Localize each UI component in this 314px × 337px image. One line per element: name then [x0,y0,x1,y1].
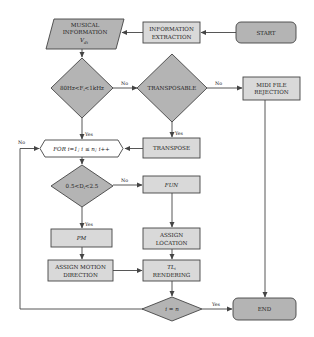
end-label: END [258,306,272,312]
assign-location-line2: LOCATION [156,240,188,246]
musical-info-line1: MUSICAL [71,22,100,28]
assign-motion-line2: DIRECTION [63,272,98,278]
tl-rendering-line2: RENDERING [153,272,191,278]
info-extraction-line1: INFORMATION [149,26,194,32]
info-extraction-line2: EXTRACTION [152,34,192,40]
node-transpose: TRANSPOSE [143,138,200,158]
node-freq-check: 80Hz<Fi<1kHz [51,58,113,118]
fun-label: FUN [164,182,180,188]
edge-label-freq-yes: Yes [84,132,94,137]
node-assign-location: ASSIGN LOCATION [143,228,200,249]
assign-motion-line1: ASSIGN MOTION [54,264,106,270]
edge-label-duration-no: No [121,178,128,183]
node-i-eq-n: i = n [142,297,202,321]
i-eq-n-label: i = n [165,306,179,312]
edge-label-freq-no: No [121,81,128,86]
pm-label: PM [76,235,87,241]
node-midi-rejection: MIDI FILE REJECTION [243,77,300,100]
node-transposable: TRANSPOSABLE [137,54,207,122]
node-for-loop: FOR i=1; i ≤ n; i++ [40,140,123,157]
node-tl-rendering: TLi RENDERING [143,260,200,281]
edge-label-loop-yes: Yes [211,302,221,307]
edge-label-loop-no: No [18,140,25,145]
node-pm: PM [51,229,112,247]
musical-info-line2: INFORMATION [63,29,108,35]
node-musical-info: MUSICAL INFORMATION Vdi [46,19,124,49]
transposable-label: TRANSPOSABLE [148,85,197,91]
transpose-label: TRANSPOSE [153,145,190,151]
for-loop-label: FOR i=1; i ≤ n; i++ [52,146,110,152]
node-fun: FUN [143,176,200,193]
assign-location-line1: ASSIGN [159,232,183,238]
midi-rejection-line2: REJECTION [254,89,288,96]
node-start: START [236,22,296,43]
node-duration-check: 0.5<Di<2.5 [51,165,113,207]
flowchart-canvas: No No Yes Yes No Yes No Yes START INFORM… [0,0,314,337]
midi-rejection-line1: MIDI FILE [256,82,286,88]
node-end: END [233,298,296,320]
edge-label-transposable-no: No [215,81,222,86]
start-label: START [256,30,275,36]
node-assign-motion: ASSIGN MOTION DIRECTION [48,260,113,281]
node-info-extraction: INFORMATION EXTRACTION [143,22,200,43]
edge-label-duration-yes: Yes [84,222,94,227]
edge-label-transposable-yes: Yes [174,131,184,136]
